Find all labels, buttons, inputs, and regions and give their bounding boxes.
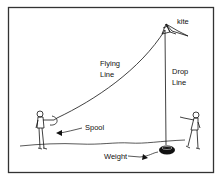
- spool-label: Spool: [85, 123, 105, 132]
- person-right-icon: [180, 112, 200, 149]
- flying-line-label-2: Line: [100, 70, 114, 79]
- drop-line: [165, 30, 166, 145]
- ground-line: [20, 140, 185, 146]
- weight-arrow-icon: [128, 152, 158, 160]
- drop-line-label-1: Drop: [172, 67, 188, 76]
- diagram-frame: [9, 8, 214, 173]
- spool-arrow-icon: [56, 128, 82, 136]
- flying-line-label-1: Flying: [100, 59, 120, 68]
- kite-label: kite: [177, 17, 189, 26]
- weight-label: Weight: [104, 152, 128, 161]
- drop-line-label-2: Line: [172, 78, 186, 87]
- weight-icon: [159, 146, 175, 155]
- person-left-icon: [36, 111, 57, 149]
- kite-diagram: kite Flying Line Drop Line Spool Weight: [0, 0, 220, 179]
